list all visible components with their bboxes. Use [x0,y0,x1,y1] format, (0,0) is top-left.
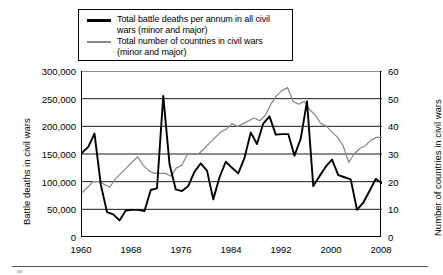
x-tick-1992: 1992 [270,244,291,255]
chart-canvas [82,71,382,237]
y-tick-left-1: 50,000 [6,204,76,215]
legend-label-country-count: Total number of countries in civil wars … [117,36,288,57]
legend-item-battle-deaths: Total battle deaths per annum in all civ… [83,14,288,35]
x-tick-1960: 1960 [70,244,91,255]
y-tick-right-2: 20 [388,176,399,187]
y-axis-left: 050,000100,000150,000200,000250,000300,0… [0,0,76,275]
y-tick-right-6: 60 [388,66,399,77]
y-tick-right-3: 30 [388,149,399,160]
x-tick-2008: 2008 [370,244,391,255]
series-line-country-count [82,88,382,193]
y-axis-left-title: Battle deaths in civil wars [21,118,32,225]
legend-swatch-black-line [87,19,111,22]
y-tick-left-5: 250,000 [6,93,76,104]
y-tick-left-3: 150,000 [6,149,76,160]
chart-legend: Total battle deaths per annum in all civ… [78,9,293,61]
y-axis-right-title: Number of countries in civil wars [432,99,443,236]
y-tick-right-0: 0 [388,232,393,243]
footer-rule [12,266,428,267]
y-tick-left-2: 100,000 [6,176,76,187]
y-tick-right-1: 10 [388,204,399,215]
plot-area [81,71,381,237]
x-tick-1968: 1968 [120,244,141,255]
y-tick-right-4: 40 [388,121,399,132]
footer-mark [17,270,22,273]
legend-label-battle-deaths: Total battle deaths per annum in all civ… [117,14,288,35]
x-tick-2000: 2000 [320,244,341,255]
y-tick-left-6: 300,000 [6,66,76,77]
y-tick-right-5: 50 [388,93,399,104]
y-axis-right: 0102030405060 [388,0,428,275]
x-tick-1976: 1976 [170,244,191,255]
legend-swatch-grey-line [87,41,111,43]
y-tick-left-0: 0 [6,232,76,243]
legend-item-country-count: Total number of countries in civil wars … [83,36,288,57]
series-line-battle-deaths [82,96,382,220]
y-tick-left-4: 200,000 [6,121,76,132]
x-tick-1984: 1984 [220,244,241,255]
